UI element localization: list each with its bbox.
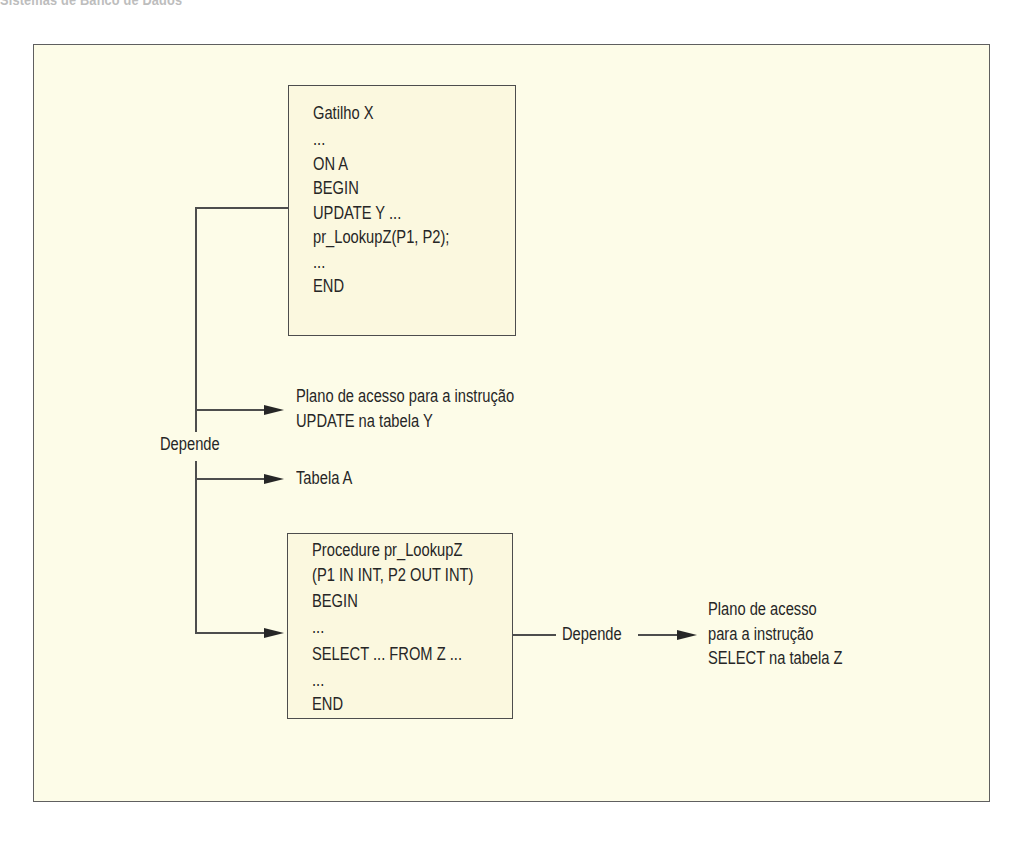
arrow-line [195,632,265,634]
code-line: END [313,274,449,299]
code-line: (P1 IN INT, P2 OUT INT) [312,563,473,588]
code-line: pr_LookupZ(P1, P2); [313,225,449,250]
target-table-a: Tabela A [296,466,352,491]
code-line: Gatilho X [313,99,449,127]
arrow-line [195,478,265,480]
code-line: ... [313,127,449,152]
target-line: Plano de acesso para a instrução [296,384,514,409]
trigger-code: Gatilho X ... ON A BEGIN UPDATE Y ... pr… [313,99,475,299]
code-line: UPDATE Y ... [313,201,449,226]
arrowhead-icon [264,405,284,415]
connector-line [195,207,288,209]
connector-line [195,207,197,432]
target-select-plan: Plano de acesso para a instrução SELECT … [708,597,843,671]
trigger-box: Gatilho X ... ON A BEGIN UPDATE Y ... pr… [288,85,516,336]
arrowhead-icon [264,628,284,638]
code-line: ... [312,668,473,693]
target-line: para a instrução [708,622,843,647]
code-line: END [312,692,473,717]
arrowhead-icon [264,474,284,484]
procedure-code: Procedure pr_LookupZ (P1 IN INT, P2 OUT … [312,538,504,717]
arrow-line [195,409,265,411]
target-line: UPDATE na tabela Y [296,409,514,434]
code-line: ON A [313,152,449,177]
code-line: BEGIN [313,176,449,201]
running-head: Sistemas de Banco de Dados [0,0,182,8]
arrowhead-icon [677,630,697,640]
code-line: BEGIN [312,587,473,615]
depends-label-right: Depende [562,622,622,647]
code-line: SELECT ... FROM Z ... [312,640,473,668]
depends-label-left: Depende [160,432,220,457]
arrow-line [638,634,678,636]
connector-line [513,634,556,636]
target-line: Plano de acesso [708,597,843,622]
code-line: ... [313,250,449,275]
target-update-plan: Plano de acesso para a instrução UPDATE … [296,384,514,433]
connector-line [195,461,197,633]
code-line: Procedure pr_LookupZ [312,538,473,563]
procedure-box: Procedure pr_LookupZ (P1 IN INT, P2 OUT … [287,533,513,719]
code-line: ... [312,615,473,640]
target-line: SELECT na tabela Z [708,646,843,671]
